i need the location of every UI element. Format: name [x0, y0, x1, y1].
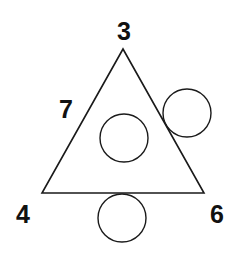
label-bottom-left-vertex: 4 [16, 202, 30, 227]
circle-below-base [98, 194, 146, 242]
circle-inside-triangle [100, 114, 148, 162]
diagram-canvas: 3 7 4 6 [0, 0, 238, 263]
label-bottom-right-vertex: 6 [210, 202, 224, 227]
label-top-vertex: 3 [117, 19, 131, 44]
label-left-side: 7 [59, 97, 73, 122]
circle-outside-right [163, 89, 211, 137]
